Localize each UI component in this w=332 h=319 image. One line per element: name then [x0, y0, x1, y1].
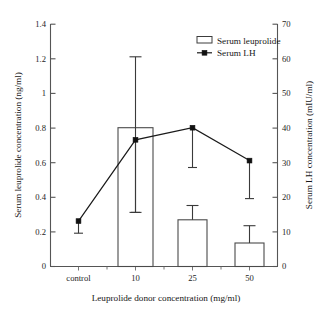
left-tick-label: 0: [42, 261, 46, 271]
right-tick-labels: 0 10 20 30 40 50 60 70: [282, 19, 291, 271]
lh-marker-10: [133, 137, 138, 142]
category-label-50: 50: [245, 273, 254, 283]
bar-series-serum-leuprolide: [118, 128, 264, 267]
right-tick-label: 60: [282, 54, 291, 64]
right-tick-label: 20: [282, 192, 291, 202]
chart-canvas: 0 0.2 0.4 0.6 0.8 1 1.2 1.4 0 10 20 30 4…: [0, 0, 332, 319]
left-tick-label: 1: [42, 88, 46, 98]
y2-axis-title: Serum LH concentration (mIU/ml): [304, 81, 314, 209]
left-tick-label: 0.2: [35, 227, 46, 237]
left-tick-label: 0.6: [35, 158, 46, 168]
x-axis-title: Leuprolide donor concentration (mg/ml): [92, 293, 241, 303]
bottom-tick-marks: [79, 267, 250, 271]
right-tick-label: 30: [282, 158, 291, 168]
legend-label-serum-lh: Serum LH: [217, 48, 256, 58]
right-tick-label: 70: [282, 19, 291, 29]
left-tick-label: 1.4: [35, 19, 46, 29]
lh-polyline: [79, 128, 250, 221]
right-tick-label: 0: [282, 261, 286, 271]
left-tick-label: 0.4: [35, 192, 46, 202]
y-axis-title: Serum leuprolide concentration (ng/ml): [13, 72, 23, 218]
bar-50: [235, 243, 264, 267]
lh-marker-50: [247, 158, 252, 163]
lh-marker-25: [190, 125, 195, 130]
figure-container: 0 0.2 0.4 0.6 0.8 1 1.2 1.4 0 10 20 30 4…: [0, 0, 332, 319]
right-tick-label: 40: [282, 123, 291, 133]
figure-caption: [0, 308, 332, 319]
category-label-control: control: [66, 273, 91, 283]
left-tick-labels: 0 0.2 0.4 0.6 0.8 1 1.2 1.4: [35, 19, 46, 271]
category-label-25: 25: [188, 273, 197, 283]
left-tick-label: 1.2: [35, 54, 46, 64]
left-tick-marks: [51, 24, 56, 266]
bar-25: [178, 220, 207, 267]
right-tick-label: 50: [282, 88, 291, 98]
legend-label-serum-leuprolide: Serum leuprolide: [217, 36, 281, 46]
right-tick-label: 10: [282, 227, 291, 237]
lh-marker-control: [76, 219, 81, 224]
category-label-10: 10: [131, 273, 140, 283]
line-series-serum-lh: [74, 125, 254, 233]
legend-swatch-serum-leuprolide: [197, 37, 212, 44]
legend: Serum leuprolide Serum LH: [197, 36, 281, 59]
bottom-tick-labels: control 10 25 50: [66, 273, 253, 283]
legend-marker-serum-lh: [202, 50, 207, 55]
right-tick-marks: [273, 24, 278, 266]
left-tick-label: 0.8: [35, 123, 46, 133]
